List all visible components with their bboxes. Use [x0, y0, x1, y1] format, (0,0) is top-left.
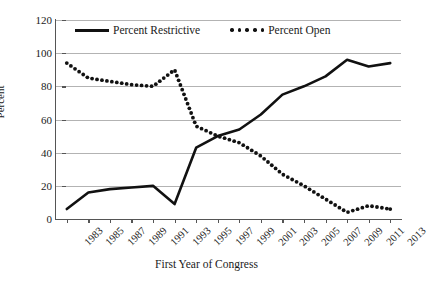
y-tick-mark — [62, 86, 66, 87]
x-tick-label: 1995 — [211, 225, 234, 248]
y-tick-mark — [62, 153, 66, 154]
x-tick-mark — [153, 219, 154, 223]
x-tick-label: 2001 — [276, 225, 299, 248]
y-tick-label: 0 — [18, 214, 52, 225]
x-tick-mark — [67, 219, 68, 223]
x-tick-mark — [326, 219, 327, 223]
x-tick-label: 2003 — [298, 225, 321, 248]
y-axis-ticks: 020406080100120 — [10, 20, 52, 219]
gridline — [56, 153, 401, 154]
legend-label-open: Percent Open — [268, 24, 330, 36]
gridline — [56, 20, 401, 21]
x-tick-label: 1983 — [82, 225, 105, 248]
y-tick-mark — [62, 186, 66, 187]
x-tick-label: 1997 — [233, 225, 256, 248]
y-tick-mark — [62, 120, 66, 121]
x-tick-mark — [196, 219, 197, 223]
x-tick-mark — [347, 219, 348, 223]
x-tick-mark — [175, 219, 176, 223]
y-tick-label: 20 — [18, 181, 52, 192]
x-axis-title: First Year of Congress — [0, 258, 413, 270]
x-tick-mark — [390, 219, 391, 223]
x-tick-label: 1989 — [147, 225, 170, 248]
y-tick-label: 120 — [18, 15, 52, 26]
y-tick-label: 60 — [18, 115, 52, 126]
y-tick-label: 100 — [18, 48, 52, 59]
plot-area — [56, 20, 401, 219]
x-tick-mark — [261, 219, 262, 223]
x-tick-mark — [282, 219, 283, 223]
legend-item-restrictive: Percent Restrictive — [75, 24, 200, 36]
x-tick-label: 2011 — [384, 225, 406, 247]
x-tick-mark — [304, 219, 305, 223]
x-tick-label: 2009 — [362, 225, 385, 248]
x-tick-label: 1991 — [168, 225, 191, 248]
y-tick-mark — [62, 20, 66, 21]
solid-line-swatch-icon — [75, 29, 109, 32]
x-tick-mark — [88, 219, 89, 223]
x-tick-mark — [369, 219, 370, 223]
x-tick-mark — [218, 219, 219, 223]
gridline — [56, 86, 401, 87]
x-tick-mark — [110, 219, 111, 223]
y-tick-label: 40 — [18, 148, 52, 159]
legend-item-open: Percent Open — [230, 24, 330, 36]
x-tick-label: 1987 — [125, 225, 148, 248]
chart-legend: Percent Restrictive Percent Open — [75, 24, 330, 36]
gridline — [56, 186, 401, 187]
gridline — [56, 120, 401, 121]
dotted-line-swatch-icon — [230, 28, 264, 32]
x-tick-label: 1993 — [190, 225, 213, 248]
x-tick-label: 1999 — [254, 225, 277, 248]
y-tick-mark — [62, 53, 66, 54]
x-tick-label: 2005 — [319, 225, 342, 248]
legend-label-restrictive: Percent Restrictive — [113, 24, 200, 36]
y-tick-label: 80 — [18, 81, 52, 92]
y-axis-title: Percent — [0, 86, 6, 119]
gridline — [56, 53, 401, 54]
x-tick-label: 1985 — [103, 225, 126, 248]
x-tick-label: 2007 — [341, 225, 364, 248]
x-tick-mark — [131, 219, 132, 223]
x-tick-label: 2013 — [405, 225, 428, 248]
x-tick-mark — [239, 219, 240, 223]
